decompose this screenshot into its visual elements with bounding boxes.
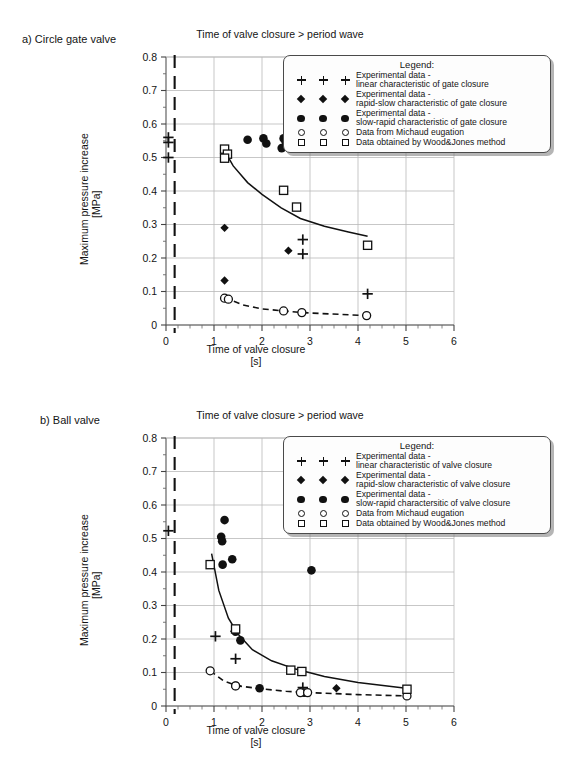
legend-label: Data obtained by Wood&Jones method xyxy=(356,138,505,147)
legend-item: Experimental data -linear characteristic… xyxy=(290,452,544,471)
x-tick-label: 3 xyxy=(307,335,313,347)
open-square-marker-icon xyxy=(364,241,372,249)
legend-label-line1: Data obtained by Wood&Jones method xyxy=(356,138,505,147)
open-square-marker-icon xyxy=(320,139,327,146)
y-tick-label: 0.1 xyxy=(142,285,157,297)
legend-label-line1: Data obtained by Wood&Jones method xyxy=(356,519,505,528)
filled-circle-marker-icon xyxy=(228,555,237,564)
y-tick-label: 0.7 xyxy=(142,84,157,96)
open-circle-marker-icon xyxy=(224,295,232,303)
open-circle-marker-icon xyxy=(280,307,288,315)
filled-circle-marker-icon xyxy=(297,115,305,123)
panel-b-legend: Legend: Experimental data -linear charac… xyxy=(283,436,551,534)
y-tick-label: 0.3 xyxy=(142,218,157,230)
trend-curve-solid xyxy=(212,554,406,689)
panel-a-legend: Legend: Experimental data -linear charac… xyxy=(283,55,551,153)
y-tick-label: 0.3 xyxy=(142,599,157,611)
x-tick-label: 6 xyxy=(451,335,457,347)
legend-symbols xyxy=(290,139,356,146)
filled-circle-marker-icon xyxy=(218,560,227,569)
open-circle-marker-icon xyxy=(206,667,214,675)
diamond-marker-icon xyxy=(297,476,305,484)
open-square-marker-icon xyxy=(342,520,349,527)
open-square-marker-icon xyxy=(403,685,411,693)
legend-symbols xyxy=(290,510,356,517)
open-square-marker-icon xyxy=(342,139,349,146)
legend-symbols xyxy=(290,96,356,102)
filled-circle-marker-icon xyxy=(319,115,327,123)
legend-item: Data obtained by Wood&Jones method xyxy=(290,519,544,528)
filled-circle-marker-icon xyxy=(341,496,349,504)
legend-label: Experimental data -linear characteristic… xyxy=(356,452,492,471)
y-tick-label: 0.7 xyxy=(142,465,157,477)
plus-marker-icon xyxy=(341,457,350,466)
x-tick-label: 4 xyxy=(355,335,361,347)
y-tick-label: 0.6 xyxy=(142,118,157,130)
diamond-marker-icon xyxy=(220,276,228,284)
legend-item: Data obtained by Wood&Jones method xyxy=(290,138,544,147)
trend-curve-solid xyxy=(224,149,368,236)
open-square-marker-icon xyxy=(206,561,214,569)
plus-marker-icon xyxy=(297,457,306,466)
legend-label: Experimental data -rapid-slow characteri… xyxy=(356,471,510,490)
filled-circle-marker-icon xyxy=(236,636,245,645)
y-tick-label: 0 xyxy=(151,319,157,331)
y-tick-label: 0.2 xyxy=(142,252,157,264)
data-series xyxy=(221,294,371,319)
legend-label: Experimental data -slow-rapid characteri… xyxy=(356,109,507,128)
plus-marker-icon xyxy=(341,76,350,85)
data-series xyxy=(206,561,411,694)
y-tick-label: 0.8 xyxy=(142,432,157,444)
x-tick-label: 1 xyxy=(211,716,217,728)
open-square-marker-icon xyxy=(287,666,295,674)
plus-marker-icon xyxy=(319,76,328,85)
open-circle-marker-icon xyxy=(342,129,349,136)
legend-item: Experimental data -slow-rapid characters… xyxy=(290,490,544,509)
open-circle-marker-icon xyxy=(342,510,349,517)
open-circle-marker-icon xyxy=(298,309,306,317)
chart-panel-b: b) Ball valve Time of valve closure > pe… xyxy=(0,381,568,762)
open-circle-marker-icon xyxy=(363,312,371,320)
legend-label: Experimental data -rapid-slow characteri… xyxy=(356,90,507,109)
diamond-marker-icon xyxy=(284,246,292,254)
open-square-marker-icon xyxy=(320,520,327,527)
x-tick-label: 2 xyxy=(259,716,265,728)
y-tick-label: 0 xyxy=(151,700,157,712)
diamond-marker-icon xyxy=(220,224,228,232)
open-circle-marker-icon xyxy=(320,510,327,517)
x-tick-label: 2 xyxy=(259,335,265,347)
plus-marker-icon xyxy=(297,76,306,85)
open-square-marker-icon xyxy=(292,203,300,211)
legend-symbols xyxy=(290,129,356,136)
legend-symbols xyxy=(290,477,356,483)
open-circle-marker-icon xyxy=(298,129,305,136)
chart-panel-a: a) Circle gate valve Time of valve closu… xyxy=(0,0,568,381)
diamond-marker-icon xyxy=(297,95,305,103)
open-circle-marker-icon xyxy=(298,510,305,517)
legend-item: Experimental data -rapid-slow characteri… xyxy=(290,471,544,490)
y-tick-label: 0.4 xyxy=(142,185,157,197)
legend-label: Data obtained by Wood&Jones method xyxy=(356,519,505,528)
legend-label: Experimental data -slow-rapid characters… xyxy=(356,490,510,509)
y-tick-label: 0.2 xyxy=(142,633,157,645)
y-tick-label: 0.1 xyxy=(142,666,157,678)
filled-circle-marker-icon xyxy=(307,566,316,575)
x-tick-label: 0 xyxy=(163,335,169,347)
trend-curve-dashed xyxy=(225,298,367,316)
open-circle-marker-icon xyxy=(232,682,240,690)
x-tick-label: 5 xyxy=(403,335,409,347)
legend-symbols xyxy=(290,520,356,527)
legend-symbols xyxy=(290,76,356,85)
filled-circle-marker-icon xyxy=(218,537,227,546)
filled-circle-marker-icon xyxy=(255,684,264,693)
diamond-marker-icon xyxy=(341,95,349,103)
open-square-marker-icon xyxy=(280,186,288,194)
legend-symbols xyxy=(290,115,356,123)
x-tick-label: 1 xyxy=(211,335,217,347)
diamond-marker-icon xyxy=(341,476,349,484)
legend-item: Experimental data -rapid-slow characteri… xyxy=(290,90,544,109)
open-square-marker-icon xyxy=(298,520,305,527)
open-square-marker-icon xyxy=(232,625,240,633)
y-tick-label: 0.6 xyxy=(142,499,157,511)
y-tick-label: 0.4 xyxy=(142,566,157,578)
